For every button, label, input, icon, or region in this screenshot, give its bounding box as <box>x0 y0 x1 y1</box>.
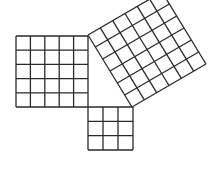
left-square-grid <box>16 36 88 107</box>
pythagorean-squares-diagram <box>0 0 216 169</box>
bottom-square-grid <box>88 107 133 150</box>
rotated-square-grid <box>88 0 206 107</box>
